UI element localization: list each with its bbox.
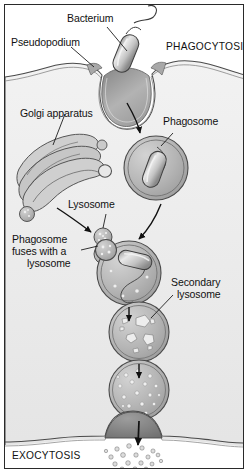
- label-lysosome: Lysosome: [68, 199, 115, 211]
- bacterium-shape: [110, 5, 156, 74]
- label-pseudopodium: Pseudopodium: [11, 37, 80, 49]
- phagosome-shape: [124, 136, 188, 200]
- label-fusion-line1: Phagosome: [12, 234, 67, 246]
- label-exocytosis: EXOCYTOSIS: [12, 450, 81, 462]
- arrow-residual-to-exocytosis: [138, 421, 139, 445]
- label-fusion-line3: lysosome: [27, 258, 71, 270]
- phagocytosis-diagram: Bacterium Pseudopodium PHAGOCYTOSIS Golg…: [0, 0, 250, 475]
- diagram-frame: Bacterium Pseudopodium PHAGOCYTOSIS Golg…: [4, 4, 244, 469]
- label-phagocytosis: PHAGOCYTOSIS: [166, 41, 244, 53]
- fusion-stage-shape: [96, 240, 162, 306]
- secondary-lysosome-shape: [109, 302, 169, 362]
- label-secondary-line2: lysosome: [177, 289, 221, 301]
- label-secondary-line1: Secondary: [171, 277, 220, 289]
- label-golgi-apparatus: Golgi apparatus: [20, 108, 93, 120]
- phagocytic-pocket: [102, 68, 151, 127]
- label-fusion-line2: fuses with a: [12, 246, 66, 258]
- label-phagosome: Phagosome: [163, 116, 218, 128]
- label-bacterium: Bacterium: [67, 13, 113, 25]
- transport-vesicle-shape: [20, 207, 35, 222]
